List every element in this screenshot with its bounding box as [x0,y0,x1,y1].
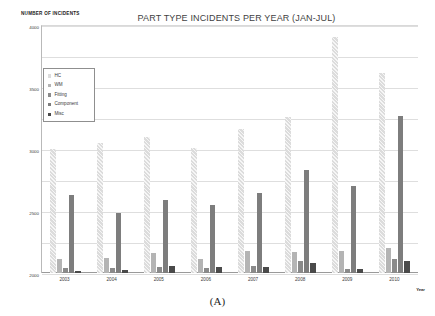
chart-title: PART TYPE INCIDENTS PER YEAR (JAN-JUL) [0,13,435,23]
legend-label: HC [54,74,61,79]
y-tick-label: 4000 [29,25,39,30]
legend-label: Misc [54,112,63,117]
bar-fitting-2007[interactable] [251,266,256,273]
legend-swatch-icon [48,93,51,96]
legend-swatch-icon [48,84,51,87]
bar-wm-2010[interactable] [386,248,391,273]
y-tick-label: 3500 [29,87,39,92]
bar-fitting-2008[interactable] [298,261,303,273]
legend-swatch-icon [48,103,51,106]
bar-misc-2005[interactable] [169,266,174,273]
legend-item-component[interactable]: Component [48,102,91,108]
x-tick-label-2007: 2007 [230,277,277,282]
bar-group [89,26,136,273]
bar-wm-2003[interactable] [57,259,62,273]
figure-caption: (A) [0,295,435,307]
bar-wm-2006[interactable] [198,259,203,273]
bar-group [371,26,418,273]
bar-component-2009[interactable] [351,186,356,273]
bar-groups [42,26,418,273]
bar-misc-2009[interactable] [357,269,362,273]
x-tick-label-2008: 2008 [277,277,324,282]
legend-swatch-icon [48,74,51,77]
y-tick-label: 2000 [29,273,39,278]
bar-hc-2006[interactable] [191,148,196,273]
legend-swatch-icon [48,113,51,116]
legend-label: WM [54,83,62,88]
legend-label: Component [54,102,78,107]
bar-misc-2003[interactable] [75,271,80,273]
bar-group [277,26,324,273]
legend-item-fitting[interactable]: Fitting [48,92,91,98]
bar-group [136,26,183,273]
bar-component-2004[interactable] [116,213,121,273]
bar-component-2010[interactable] [398,116,403,273]
bar-group [324,26,371,273]
bar-misc-2007[interactable] [263,267,268,274]
bar-misc-2006[interactable] [216,267,221,274]
figure-panel: NUMBER OF INCIDENTS PART TYPE INCIDENTS … [0,0,435,316]
bar-hc-2010[interactable] [379,73,384,273]
x-tick-label-2004: 2004 [88,277,135,282]
bar-fitting-2005[interactable] [157,267,162,273]
x-axis-tick-labels: 20032004200520062007200820092010 [41,277,418,282]
bar-fitting-2010[interactable] [392,259,397,273]
bar-hc-2003[interactable] [50,149,55,273]
y-tick-label: 2500 [29,211,39,216]
bar-wm-2005[interactable] [151,253,156,273]
bar-component-2008[interactable] [304,170,309,273]
y-tick-label: 3000 [29,149,39,154]
bar-group [183,26,230,273]
bar-group [230,26,277,273]
bar-wm-2007[interactable] [245,251,250,273]
bar-fitting-2003[interactable] [63,268,68,273]
legend-item-misc[interactable]: Misc [48,111,91,117]
bar-component-2006[interactable] [210,205,215,274]
x-tick-label-2006: 2006 [182,277,229,282]
legend-item-hc[interactable]: HC [48,73,91,79]
x-tick-label-2010: 2010 [371,277,418,282]
x-axis-title: Year [416,287,425,292]
bar-fitting-2006[interactable] [204,268,209,273]
bar-hc-2009[interactable] [332,37,337,273]
legend-item-wm[interactable]: WM [48,83,91,89]
bar-fitting-2004[interactable] [110,268,115,273]
x-tick-label-2005: 2005 [135,277,182,282]
chart-legend[interactable]: HCWMFittingComponentMisc [43,68,95,122]
bar-wm-2008[interactable] [292,252,297,273]
bar-hc-2007[interactable] [238,129,243,273]
bar-misc-2010[interactable] [404,261,409,273]
gridline: 0 [42,274,418,275]
bar-fitting-2009[interactable] [345,269,350,273]
bar-wm-2009[interactable] [339,251,344,273]
bar-hc-2005[interactable] [144,137,149,273]
plot-area: 05001000150020002500300035004000 [41,25,418,273]
x-tick-label-2003: 2003 [41,277,88,282]
x-tick-label-2009: 2009 [324,277,371,282]
bar-wm-2004[interactable] [104,258,109,273]
bar-hc-2004[interactable] [97,143,102,273]
legend-label: Fitting [54,93,67,98]
bar-hc-2008[interactable] [285,117,290,273]
bar-component-2005[interactable] [163,200,168,273]
bar-component-2007[interactable] [257,193,262,273]
bar-misc-2008[interactable] [310,263,315,273]
bar-group [42,26,89,273]
bar-misc-2004[interactable] [122,270,127,273]
bar-component-2003[interactable] [69,195,74,273]
